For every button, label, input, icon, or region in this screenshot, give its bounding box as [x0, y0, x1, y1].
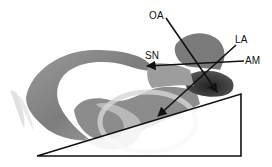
anatomy-diagram-svg — [0, 0, 272, 167]
sn-label: SN — [145, 51, 159, 61]
diagram: OA LA SN AM — [0, 0, 272, 167]
oa-label: OA — [149, 11, 164, 21]
am-label: AM — [245, 56, 260, 66]
la-label: LA — [235, 35, 248, 45]
